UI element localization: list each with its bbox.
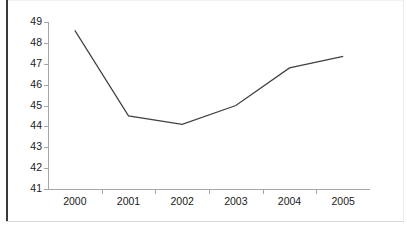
y-axis-tick-label: 41	[2, 183, 42, 194]
y-axis-tick	[44, 43, 49, 44]
y-axis-tick	[44, 64, 49, 65]
x-axis-tick	[263, 190, 264, 194]
y-axis-tick-label: 42	[2, 162, 42, 173]
y-axis-tick	[44, 147, 49, 148]
chart-figure: 494847464544434241 200020012002200320042…	[0, 0, 407, 226]
y-axis-tick-label: 47	[2, 58, 42, 69]
frame-border-bottom	[6, 221, 404, 222]
y-axis-tick-label: 45	[2, 100, 42, 111]
y-axis-tick	[44, 85, 49, 86]
y-axis-tick-label: 48	[2, 37, 42, 48]
x-axis-tick-label: 2001	[104, 195, 154, 207]
y-axis-tick-label: 43	[2, 141, 42, 152]
y-axis-tick	[44, 22, 49, 23]
x-axis-tick	[209, 190, 210, 194]
y-axis-tick-label: 44	[2, 120, 42, 131]
frame-border-top	[6, 0, 404, 1]
x-axis-tick-label: 2000	[50, 195, 100, 207]
y-axis-tick	[44, 168, 49, 169]
y-axis-tick-labels: 494847464544434241	[0, 0, 42, 226]
y-axis-tick-label: 49	[2, 16, 42, 27]
x-axis-tick-label: 2002	[157, 195, 207, 207]
x-axis-tick-label: 2003	[211, 195, 261, 207]
x-axis-tick-label: 2005	[318, 195, 368, 207]
y-axis-tick	[44, 189, 49, 190]
x-axis-tick	[102, 190, 103, 194]
x-axis-tick-label: 2004	[265, 195, 315, 207]
data-series-line	[0, 0, 407, 226]
y-axis-tick-label: 46	[2, 79, 42, 90]
y-axis-tick	[44, 106, 49, 107]
x-axis-tick	[155, 190, 156, 194]
frame-border-right	[403, 0, 404, 222]
y-axis-tick	[44, 126, 49, 127]
x-axis-tick	[316, 190, 317, 194]
